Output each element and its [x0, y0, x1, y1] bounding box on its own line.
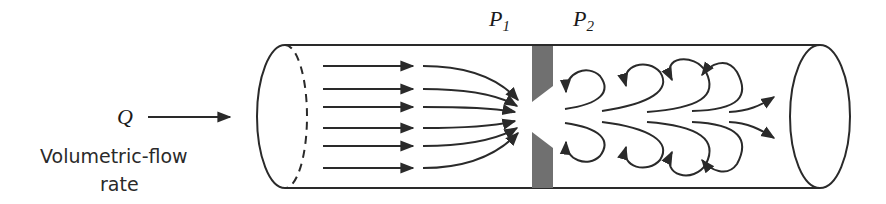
pipe-outlet-ellipse [790, 45, 850, 188]
flow-caption-line2: rate [100, 173, 139, 195]
pressure-labels: P1 P2 [488, 6, 594, 34]
orifice-flow-diagram: Q Volumetric-flow rate P1 P2 [0, 0, 886, 204]
orifice-plate-upper [532, 46, 553, 102]
downstream-eddies [565, 59, 742, 175]
flow-input: Q Volumetric-flow rate [40, 104, 230, 195]
orifice-plate-lower [532, 132, 553, 188]
converging-streamlines [423, 66, 518, 168]
pipe-inlet-hidden-arc [285, 45, 307, 188]
pressure-label-p1: P1 [488, 6, 510, 34]
pressure-label-p2: P2 [572, 6, 594, 34]
outlet-jet [729, 97, 774, 138]
orifice-plate [532, 46, 553, 188]
pipe-inlet-front-arc [257, 45, 285, 188]
flow-symbol: Q [117, 104, 133, 129]
flow-caption-line1: Volumetric-flow [40, 145, 188, 167]
inlet-streamlines [323, 66, 413, 168]
